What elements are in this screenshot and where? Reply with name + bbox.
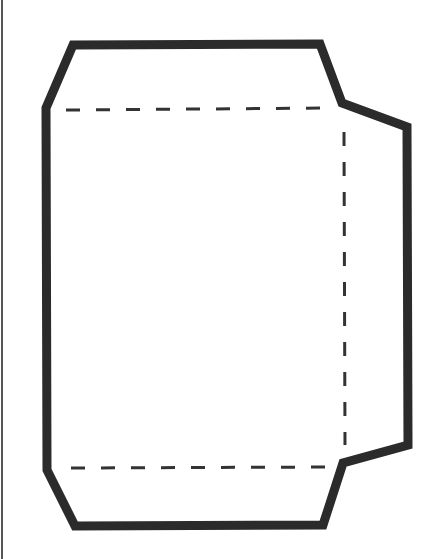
side-flap-fold-line [344, 132, 345, 445]
top-flap-fold-line [66, 108, 333, 110]
bottom-flap-fold-line [71, 467, 333, 468]
cut-outline [46, 44, 408, 526]
diagram-svg [0, 0, 439, 559]
envelope-template-diagram: Envelope template [0, 0, 439, 559]
